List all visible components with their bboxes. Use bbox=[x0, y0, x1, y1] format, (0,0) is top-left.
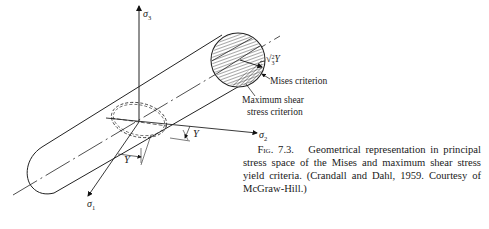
y-dimension-lower: Y bbox=[124, 155, 130, 166]
end-disk-section bbox=[210, 30, 270, 96]
sigma2-axis bbox=[106, 118, 257, 133]
sigma3-label: σ3 bbox=[143, 9, 151, 22]
max-shear-label-line2: stress criterion bbox=[247, 108, 303, 118]
cylinder-end-cap bbox=[27, 147, 54, 194]
max-shear-label-line1: Maximum shear bbox=[242, 96, 304, 106]
radius-label: √23Y bbox=[266, 54, 280, 66]
mises-criterion-label: Mises criterion bbox=[270, 77, 327, 87]
sigma1-label: σ1 bbox=[87, 199, 95, 212]
sigma2-label: σ2 bbox=[259, 130, 267, 143]
caption-figure-number: Fig. 7.3. bbox=[257, 144, 294, 155]
figure-caption: Fig. 7.3. Geometrical representation in … bbox=[243, 143, 481, 195]
cylinder-bottom-edge bbox=[54, 84, 243, 193]
y-dimension-upper: Y bbox=[193, 129, 199, 140]
